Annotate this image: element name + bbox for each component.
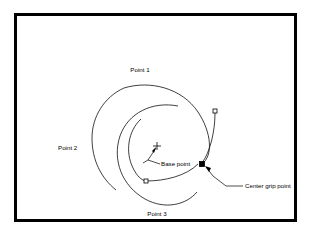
diagram-canvas: Point 1 Point 2 Point 3 Base point Cente… (0, 0, 312, 236)
upper-right-grip-square[interactable] (213, 109, 217, 113)
lower-left-grip-square[interactable] (144, 179, 148, 183)
label-point-2: Point 2 (58, 144, 78, 151)
label-point-1: Point 1 (130, 66, 150, 73)
outer-arc-path (124, 85, 209, 164)
inner-arc-upper-path (129, 119, 146, 181)
center-grip-arrow-icon (205, 166, 213, 176)
center-grip-square[interactable] (200, 162, 205, 167)
label-point-3: Point 3 (147, 210, 167, 217)
base-point-leader-line (143, 160, 160, 164)
center-grip-leader-line (213, 176, 243, 186)
label-center-grip-point: Center grip point (245, 182, 291, 189)
diagram-page: Point 1 Point 2 Point 3 Base point Cente… (0, 0, 312, 236)
label-base-point: Base point (161, 160, 191, 167)
base-point-arrow-icon (148, 147, 156, 160)
